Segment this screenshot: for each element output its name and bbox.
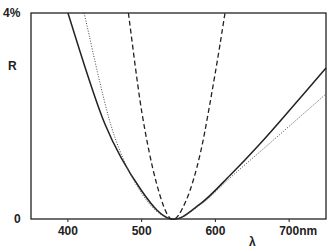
y-axis-label: R xyxy=(8,59,17,73)
x-tick-label: 500 xyxy=(132,224,152,238)
curve-dotted xyxy=(84,13,326,219)
y-tick-bottom: 0 xyxy=(14,212,21,226)
x-axis-label: λ xyxy=(249,235,256,249)
y-tick-top: 4% xyxy=(3,6,21,20)
x-tick-label: 700nm xyxy=(279,224,317,238)
x-tick-label: 400 xyxy=(58,224,78,238)
x-tick-label: 600 xyxy=(205,224,225,238)
curves xyxy=(68,13,326,220)
reflectance-chart: 400500600700nm 4% 0 R λ xyxy=(0,0,333,250)
plot-frame xyxy=(31,13,326,219)
curve-dashed xyxy=(128,13,225,220)
x-ticks: 400500600700nm xyxy=(58,219,317,238)
curve-solid xyxy=(68,13,326,219)
